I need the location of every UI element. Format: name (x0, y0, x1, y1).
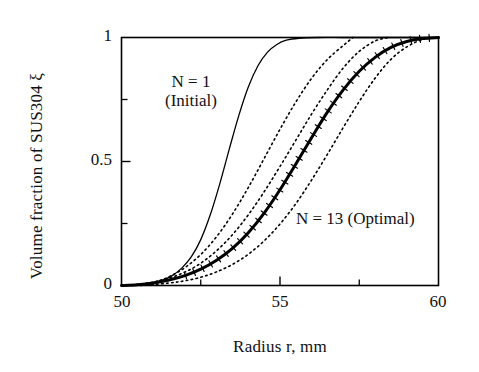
curve-tickmarks (184, 34, 429, 278)
y-tick-label-0point5: 0.5 (70, 150, 112, 170)
y-axis-label: Volume fraction of SUS304 ξ (27, 41, 47, 311)
series-label-n1-line1: N = 1 (165, 72, 217, 91)
x-axis-label: Radius r, mm (160, 337, 400, 357)
series-label-n1: N = 1 (Initial) (165, 72, 217, 110)
figure-canvas: Volume fraction of SUS304 ξ Radius r, mm… (0, 0, 479, 372)
x-tick-label-50: 50 (108, 292, 136, 312)
chart-plot-area (0, 0, 479, 372)
y-tick-label-0: 0 (86, 274, 112, 294)
x-tick-label-55: 55 (266, 292, 294, 312)
y-tick-label-1: 1 (86, 26, 112, 46)
series-label-n13: N = 13 (Optimal) (296, 209, 415, 228)
series-label-n1-line2: (Initial) (165, 91, 217, 110)
x-tick-label-60: 60 (424, 292, 452, 312)
